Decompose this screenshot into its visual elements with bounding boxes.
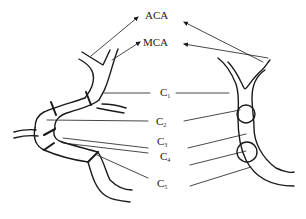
pointer-arrows (91, 17, 268, 62)
label-c2: C2 (156, 116, 166, 128)
carotid-segment-diagram: ACA MCA C1 C2 C3 C4 C5 (0, 0, 306, 219)
label-mca: MCA (143, 37, 168, 48)
label-c3-sub: 3 (164, 142, 167, 148)
label-c1-sub: 1 (167, 93, 170, 99)
label-c4-sub: 4 (167, 157, 170, 163)
label-c2-sub: 2 (163, 122, 166, 128)
label-c5: C5 (157, 178, 167, 190)
label-c1: C1 (160, 87, 170, 99)
label-c3: C3 (157, 136, 167, 148)
right-carotid-vessel (218, 58, 294, 186)
diagram-drawing (0, 0, 306, 219)
label-c4: C4 (160, 151, 170, 163)
label-aca: ACA (145, 10, 168, 21)
label-c5-sub: 5 (164, 184, 167, 190)
leader-lines (47, 93, 251, 186)
left-carotid-vessel (14, 49, 132, 202)
